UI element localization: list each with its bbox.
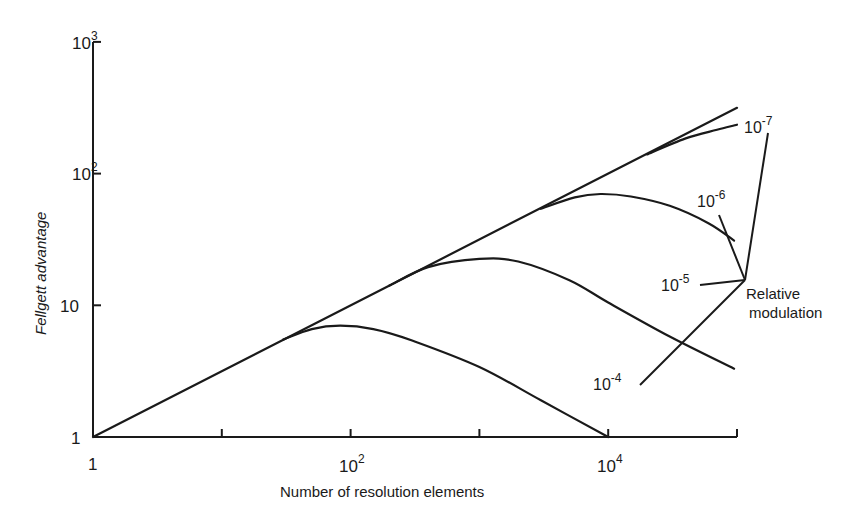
leader-1e-4: [640, 280, 745, 385]
x-tick-label-100: 102: [339, 452, 365, 476]
curve-10e-7: [647, 125, 737, 155]
curves: [93, 108, 737, 437]
x-axis-title: Number of resolution elements: [280, 483, 484, 500]
leader-lines: [640, 133, 768, 385]
axes: [93, 42, 737, 437]
y-tick-label-1000: 103: [72, 29, 98, 53]
x-tick-label-1: 1: [88, 455, 97, 474]
label-1e-6: 10-6: [697, 188, 726, 210]
y-tick-label-100: 102: [72, 160, 98, 184]
x-ticks: [222, 429, 737, 437]
leader-1e-7: [745, 133, 768, 280]
fellgett-advantage-chart: 103 102 10 1 1 102 104 Number of resolut…: [0, 0, 856, 526]
y-axis-title: Fellgett advantage: [32, 212, 49, 335]
series-annotations: 10-7 10-6 10-5 10-4 Relativemodulation: [593, 114, 822, 393]
curve-10e-4: [283, 326, 608, 437]
label-1e-7: 10-7: [744, 114, 773, 136]
x-tick-label-10000: 104: [597, 452, 623, 476]
label-1e-4: 10-4: [593, 371, 622, 393]
leader-1e-5: [700, 280, 745, 285]
y-tick-label-10: 10: [60, 297, 79, 316]
x-tick-labels: 1 102 104: [88, 452, 623, 476]
label-1e-5: 10-5: [661, 272, 690, 294]
leader-1e-6: [719, 215, 745, 280]
relative-modulation-label: Relativemodulation: [746, 285, 822, 321]
y-tick-label-1: 1: [71, 429, 80, 448]
